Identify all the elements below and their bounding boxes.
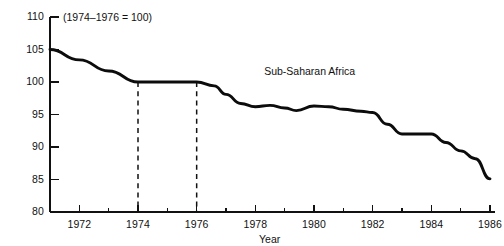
y-tick-label-100: 100 (14, 75, 44, 87)
x-tick-label-1982: 1982 (353, 218, 393, 230)
x-tick-label-1984: 1984 (411, 218, 451, 230)
y-tick-label-110: 110 (14, 10, 44, 22)
x-tick-label-1978: 1978 (235, 218, 275, 230)
x-tick-label-1972: 1972 (59, 218, 99, 230)
axes-group (50, 17, 495, 212)
series-label-sub-saharan-africa: Sub-Saharan Africa (264, 65, 355, 77)
x-tick-label-1974: 1974 (118, 218, 158, 230)
chart-plot-area (0, 0, 504, 246)
y-tick-label-80: 80 (14, 205, 44, 217)
x-tick-label-1980: 1980 (294, 218, 334, 230)
index-base-note: (1974–1976 = 100) (63, 11, 152, 23)
y-tick-label-90: 90 (14, 140, 44, 152)
y-tick-label-95: 95 (14, 108, 44, 120)
reference-lines-group (138, 82, 197, 212)
y-tick-label-105: 105 (14, 43, 44, 55)
x-tick-label-1986: 1986 (470, 218, 504, 230)
chart-container: 80859095100105110 1972197419761978198019… (0, 0, 504, 246)
x-tick-label-1976: 1976 (177, 218, 217, 230)
x-axis-title: Year (259, 233, 280, 245)
ticks-group (50, 17, 490, 212)
y-tick-label-85: 85 (14, 173, 44, 185)
